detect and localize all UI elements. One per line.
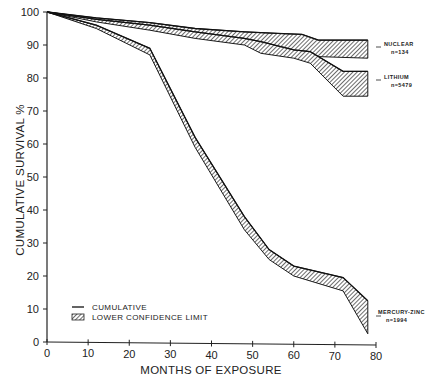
survival-chart: 010203040506070809010001020304050607080 … [0, 0, 436, 380]
x-tick-label: 60 [288, 349, 300, 361]
axis-ticks: 010203040506070809010001020304050607080 [21, 6, 382, 362]
y-tick-label: 0 [33, 336, 39, 348]
y-tick-label: 70 [27, 105, 39, 117]
y-axis-title: CUMULATIVE SURVIVAL % [14, 104, 26, 256]
legend-hatch-swatch [72, 314, 84, 320]
legend-cumulative-label: CUMULATIVE [92, 303, 147, 312]
x-tick-label: 80 [370, 350, 382, 362]
x-tick-label: 70 [329, 350, 341, 362]
confidence-bands [47, 12, 368, 334]
x-tick-label: 30 [164, 348, 176, 360]
x-tick-label: 20 [123, 348, 135, 360]
y-tick-label: 90 [27, 39, 39, 51]
legend-lower-label: LOWER CONFIDENCE LIMIT [92, 313, 208, 322]
lithium-label: LITHIUM [384, 74, 409, 80]
mercury-zinc-label: MERCURY-ZINC [378, 309, 425, 315]
x-axis-title: MONTHS OF EXPOSURE [140, 364, 282, 376]
lithium-n: n=5479 [391, 82, 412, 88]
y-tick-label: 100 [21, 6, 39, 18]
nuclear-label: NUCLEAR [384, 41, 414, 47]
x-tick-label: 0 [44, 347, 50, 359]
y-tick-label: 50 [27, 171, 39, 183]
x-tick-label: 50 [247, 349, 259, 361]
nuclear-n: n=134 [391, 49, 409, 55]
y-tick-label: 10 [27, 303, 39, 315]
legend: CUMULATIVE LOWER CONFIDENCE LIMIT [72, 303, 208, 322]
y-tick-label: 60 [27, 138, 39, 150]
y-tick-label: 80 [27, 72, 39, 84]
mercury-zinc-n: n=1994 [386, 317, 408, 323]
y-tick-label: 30 [27, 237, 39, 249]
y-tick-label: 20 [27, 270, 39, 282]
x-tick-label: 10 [82, 347, 94, 359]
x-tick-label: 40 [205, 349, 217, 361]
y-tick-label: 40 [27, 204, 39, 216]
